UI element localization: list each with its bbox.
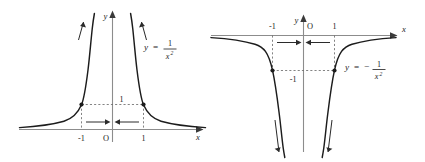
right-eq-sign: − xyxy=(364,62,369,72)
right-eq-lhs: y xyxy=(344,62,350,72)
right-x-axis xyxy=(211,32,398,38)
right-panel: -1 1 -1 O x y y = − 1 x 2 xyxy=(211,15,406,158)
left-approach-arrow-right xyxy=(86,119,111,125)
left-approach-arrow-left xyxy=(115,119,140,125)
left-panel: -1 1 1 O x y y = 1 x 2 xyxy=(19,11,206,143)
left-curve-left-branch xyxy=(20,14,95,128)
right-ytick-label-neg1: -1 xyxy=(290,75,297,84)
right-point-marker-pos1 xyxy=(332,68,336,72)
left-point-marker-pos1 xyxy=(141,102,145,106)
left-eq-lhs: y xyxy=(143,42,149,52)
right-equation-annotation: y = − 1 x 2 xyxy=(344,60,386,82)
right-origin-label: O xyxy=(307,22,313,31)
left-equation-annotation: y = 1 x 2 xyxy=(143,39,177,61)
left-x-axis-label: x xyxy=(195,132,200,142)
left-xtick-label-pos1: 1 xyxy=(141,134,145,143)
right-flow-arrow-down-left xyxy=(275,120,281,152)
math-figure: -1 1 1 O x y y = 1 x 2 xyxy=(0,0,425,162)
left-eq-exponent: 2 xyxy=(171,50,174,56)
left-flow-arrow-up-right xyxy=(139,22,147,40)
right-eq-exponent: 2 xyxy=(380,71,383,77)
left-eq-denominator: x xyxy=(165,52,170,61)
left-point-marker-neg1 xyxy=(79,102,83,106)
right-approach-arrow-left xyxy=(306,40,331,46)
left-flow-arrow-up-left xyxy=(79,22,87,40)
right-curve-left-branch xyxy=(211,38,285,158)
left-curve-right-branch xyxy=(131,14,206,128)
right-flow-arrow-down-right xyxy=(326,120,332,152)
left-y-axis xyxy=(109,11,115,143)
right-eq-numerator: 1 xyxy=(377,60,381,69)
right-approach-arrow-right xyxy=(277,40,302,46)
right-eq-operator: = xyxy=(354,62,359,72)
left-x-axis xyxy=(19,126,204,132)
right-xtick-label-pos1: 1 xyxy=(332,22,336,31)
graph-canvas: -1 1 1 O x y y = 1 x 2 xyxy=(0,0,425,162)
left-xtick-label-neg1: -1 xyxy=(78,134,85,143)
left-eq-numerator: 1 xyxy=(168,39,172,48)
left-origin-label: O xyxy=(103,134,109,143)
right-eq-denominator: x xyxy=(374,72,379,81)
right-point-marker-neg1 xyxy=(270,68,274,72)
left-y-axis-label: y xyxy=(103,11,108,21)
right-curve-right-branch xyxy=(322,38,396,158)
right-y-axis-label: y xyxy=(294,15,299,25)
right-x-axis-label: x xyxy=(401,24,406,34)
left-ytick-label-pos1: 1 xyxy=(120,95,124,104)
left-eq-operator: = xyxy=(153,42,158,52)
right-xtick-label-neg1: -1 xyxy=(269,22,276,31)
